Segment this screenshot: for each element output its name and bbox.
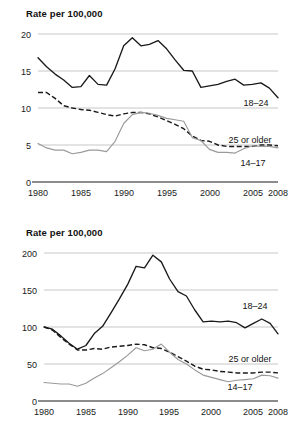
chart-top-series-18-24 [38,38,278,98]
xtick-label: 2005 [243,188,263,198]
chart-top-series-14-17 [38,112,278,153]
chart-bottom-legend: 18–24 25 or older 14–17 [227,301,271,392]
ytick-label: 150 [22,286,37,296]
chart-bottom-x-tick-labels: 1980 1985 1990 1995 2000 2005 2008 [34,407,288,417]
xtick-label: 1985 [71,188,91,198]
xtick-label: 2000 [200,188,220,198]
ytick-label: 10 [21,104,31,114]
chart-bottom-plot: 200 150 100 50 0 1980 1985 1990 1995 200… [0,219,297,438]
chart-bottom-y-tick-labels: 200 150 100 50 0 [22,249,37,407]
xtick-label: 1980 [28,188,48,198]
chart-top-gridlines [38,34,278,145]
xtick-label: 2000 [201,407,221,417]
ytick-label: 5 [26,141,31,151]
chart-top: Rate per 100,000 20 15 10 5 0 1980 1985 … [0,0,297,219]
chart-top-plot: 20 15 10 5 0 1980 1985 1990 1995 2000 20… [0,0,297,219]
ytick-label: 20 [21,30,31,40]
xtick-label: 1990 [114,188,134,198]
chart-bottom-series-25-or-older [44,327,278,373]
ytick-label: 0 [32,397,37,407]
xtick-label: 1995 [159,407,179,417]
xtick-label: 1985 [76,407,96,417]
xtick-label: 1980 [34,407,54,417]
chart-top-y-tick-labels: 20 15 10 5 0 [21,30,31,188]
ytick-label: 50 [27,360,37,370]
xtick-label: 2008 [268,188,288,198]
series-label-25-or-older: 25 or older [228,354,271,364]
series-label-25-or-older: 25 or older [228,135,271,145]
xtick-label: 1990 [118,407,138,417]
series-label-18-24: 18–24 [242,301,267,311]
xtick-label: 1995 [157,188,177,198]
xtick-label: 2008 [268,407,288,417]
series-label-14-17: 14–17 [227,382,252,392]
chart-bottom: Rate per 100,000 200 150 100 50 0 1980 1… [0,219,297,438]
xtick-label: 2005 [243,407,263,417]
series-label-14-17: 14–17 [240,158,265,168]
chart-top-legend: 18–24 25 or older 14–17 [228,98,271,168]
series-label-18-24: 18–24 [243,98,268,108]
ytick-label: 100 [22,323,37,333]
ytick-label: 200 [22,249,37,259]
chart-top-x-tick-labels: 1980 1985 1990 1995 2000 2005 2008 [28,188,288,198]
ytick-label: 0 [26,178,31,188]
ytick-label: 15 [21,67,31,77]
